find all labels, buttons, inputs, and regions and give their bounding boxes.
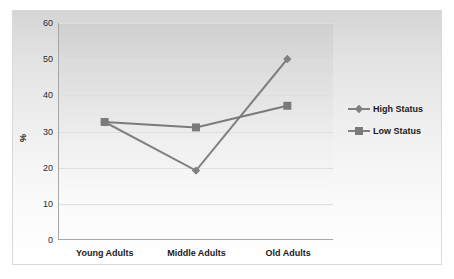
- x-tick-old-adults: Old Adults: [266, 248, 311, 258]
- y-tick-20: 20: [43, 163, 53, 173]
- y-tick-30: 30: [43, 127, 53, 137]
- data-point-square[interactable]: [192, 123, 200, 131]
- legend-marker-diamond-icon: [348, 103, 370, 115]
- x-tick-young-adults: Young Adults: [76, 248, 134, 258]
- plot-area: 60 50 40 30 20 10 0 Young Adults Middle …: [58, 23, 333, 240]
- y-tick-60: 60: [43, 18, 53, 28]
- series-high-status: [100, 55, 291, 175]
- legend-label-low-status: Low Status: [373, 126, 421, 136]
- series-low-status: [101, 102, 292, 132]
- legend-item-high-status[interactable]: High Status: [348, 98, 430, 120]
- chart-legend: High Status Low Status: [348, 98, 430, 142]
- legend-item-low-status[interactable]: Low Status: [348, 120, 430, 142]
- y-tick-10: 10: [43, 199, 53, 209]
- series-plot: [59, 23, 333, 239]
- data-point-square[interactable]: [283, 102, 291, 110]
- legend-label-high-status: High Status: [373, 104, 423, 114]
- y-axis-title: %: [18, 133, 28, 141]
- legend-marker-square-icon: [348, 125, 370, 137]
- data-point-square[interactable]: [101, 118, 109, 126]
- y-tick-0: 0: [48, 235, 53, 245]
- x-tick-middle-adults: Middle Adults: [167, 248, 226, 258]
- y-tick-40: 40: [43, 90, 53, 100]
- y-tick-50: 50: [43, 54, 53, 64]
- series-line: [105, 59, 288, 171]
